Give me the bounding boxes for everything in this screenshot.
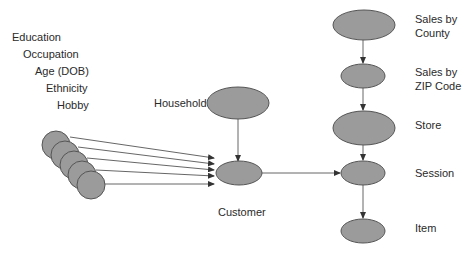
store-label: Store [415, 118, 441, 132]
household-node[interactable] [207, 87, 269, 119]
attribute-label-occupation: Occupation [23, 47, 79, 61]
customer-node[interactable] [216, 161, 262, 185]
sales-by-zip-label-line2: ZIP Code [415, 79, 461, 93]
attribute-node-hobby[interactable] [77, 171, 105, 199]
attribute-nodes [42, 131, 105, 199]
item-label: Item [415, 221, 436, 235]
sales-by-zip-label-line1: Sales by [415, 65, 457, 79]
household-label: Household [154, 96, 207, 110]
attribute-label-education: Education [12, 30, 61, 44]
customer-label: Customer [218, 205, 266, 219]
session-label: Session [415, 166, 454, 180]
attribute-label-age: Age (DOB) [35, 64, 89, 78]
item-node[interactable] [341, 219, 385, 243]
attribute-label-ethnicity: Ethnicity [46, 81, 88, 95]
sales-by-county-label-line1: Sales by [415, 12, 457, 26]
sales-by-county-node[interactable] [333, 10, 395, 40]
attribute-label-hobby: Hobby [57, 98, 89, 112]
sales-by-county-label-line2: County [415, 26, 450, 40]
store-node[interactable] [333, 111, 395, 145]
session-node[interactable] [341, 161, 385, 185]
sales-by-zip-node[interactable] [341, 64, 385, 88]
